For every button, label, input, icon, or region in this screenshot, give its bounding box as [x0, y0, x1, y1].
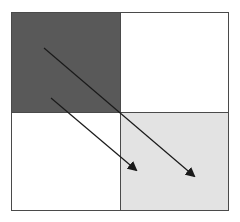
- arrow-long-icon: [44, 48, 194, 176]
- arrows-layer: [0, 0, 240, 222]
- arrow-short-icon: [51, 98, 136, 170]
